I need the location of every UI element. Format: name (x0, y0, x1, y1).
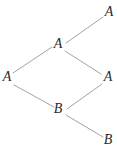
edge-b-middle-to-a-right (67, 84, 102, 109)
node-label-a-right: A (104, 70, 113, 84)
edge-a-upper-middle-to-a-right (65, 51, 101, 74)
node-label-b-bottom-right: B (104, 133, 113, 147)
edge-a-left-to-b-middle (14, 85, 54, 107)
node-label-b-middle: B (54, 102, 63, 116)
edge-a-upper-middle-to-a-top-right (66, 17, 103, 43)
edges-layer (0, 0, 117, 153)
tree-diagram: AAAABB (0, 0, 117, 153)
node-label-a-top-right: A (105, 5, 114, 19)
edge-a-left-to-a-upper-middle (13, 47, 52, 73)
edge-b-middle-to-b-bottom-right (66, 115, 103, 137)
node-label-a-upper-middle: A (54, 37, 63, 51)
node-label-a-left: A (3, 70, 12, 84)
